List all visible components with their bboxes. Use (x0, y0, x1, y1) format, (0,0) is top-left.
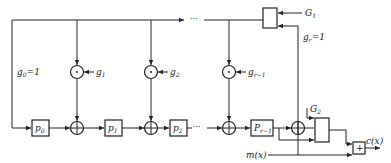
switch-g2 (315, 118, 329, 142)
coef-g1-label: g1 (96, 67, 106, 78)
output-adder: + (353, 142, 365, 154)
register-p0: p0 (32, 120, 49, 136)
feedback-bus: ··· (12, 15, 229, 128)
output-label: c(x) (366, 136, 384, 146)
register-p2: p2 (170, 120, 187, 136)
chain-ellipsis: ··· (193, 123, 201, 132)
encoder-diagram: ··· g0=1 p0 g1 p1 g2 (0, 0, 391, 163)
gate-g2-label: G2 (310, 104, 321, 115)
multiplier-g2 (145, 66, 158, 79)
xor-adder-1 (71, 122, 84, 135)
multiplier-g1 (71, 66, 84, 79)
bus-ellipsis: ··· (190, 15, 198, 24)
svg-text:+: + (356, 143, 364, 153)
multiplier-gr-1 (223, 66, 236, 79)
gr-label: gr=1 (303, 32, 325, 43)
register-p1: p1 (105, 120, 122, 136)
xor-adder-3 (223, 122, 236, 135)
g0-label: g0=1 (17, 67, 40, 78)
xor-adder-2 (145, 122, 158, 135)
gate-g1-label: G1 (305, 8, 316, 19)
coef-g2-label: g2 (170, 67, 180, 78)
register-pr-1: Pr−1 (251, 120, 273, 136)
input-label: m(x) (246, 150, 267, 160)
coef-gr-1-label: gr−1 (248, 67, 265, 78)
gate-g1 (263, 8, 277, 28)
